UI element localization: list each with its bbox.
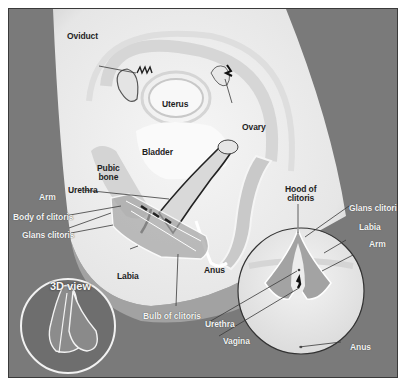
- label-labia-side: Labia: [117, 271, 139, 281]
- label-bulb-of-clitoris: Bulb of clitoris: [143, 311, 201, 321]
- label-anus-front: Anus: [350, 342, 371, 352]
- anatomy-diagram: Oviduct Uterus Ovary Bladder Pubic bone …: [8, 8, 398, 378]
- label-urethra-side: Urethra: [68, 185, 98, 195]
- label-arm-front: Arm: [369, 239, 386, 249]
- label-body-of-clitoris: Body of clitoris: [13, 212, 73, 222]
- label-hood-of-clitoris: Hood of clitoris: [285, 185, 316, 203]
- label-labia-front: Labia: [359, 222, 381, 232]
- label-anus-side: Anus: [204, 265, 225, 275]
- uterus-shape: [149, 79, 203, 117]
- label-uterus: Uterus: [162, 99, 188, 109]
- label-vagina: Vagina: [223, 336, 250, 346]
- label-arm-side: Arm: [39, 192, 56, 202]
- label-bladder: Bladder: [142, 147, 173, 157]
- label-glans-clitoris-front: Glans clitoris: [349, 203, 398, 213]
- label-urethra-front: Urethra: [205, 319, 235, 329]
- label-ovary: Ovary: [242, 122, 266, 132]
- label-glans-clitoris-side: Glans clitoris: [22, 230, 74, 240]
- label-oviduct: Oviduct: [67, 31, 98, 41]
- label-pubic-bone: Pubic bone: [97, 164, 120, 182]
- inset-title-3d-view: 3D view: [50, 280, 91, 292]
